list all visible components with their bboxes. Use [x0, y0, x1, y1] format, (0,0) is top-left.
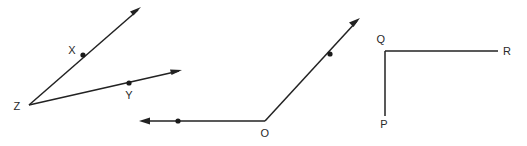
geometry-diagram: X Y Z O Q R P — [0, 0, 527, 146]
ray-zx-arrowhead — [130, 7, 141, 16]
angle-xzy-group: X Y Z — [14, 7, 182, 112]
ray-o-upright-arrowhead — [349, 18, 360, 27]
point-y-dot — [126, 80, 131, 85]
ray-zy-arrowhead — [170, 70, 182, 76]
label-y: Y — [125, 89, 133, 101]
label-q: Q — [377, 33, 386, 45]
angle-o-group: O — [139, 18, 360, 139]
ray-o-upright-line — [265, 21, 357, 121]
label-o: O — [261, 127, 270, 139]
ray-o-upright-dot — [327, 51, 332, 56]
ray-o-left-dot — [175, 118, 180, 123]
ray-zy-line — [29, 71, 179, 105]
label-r: R — [503, 45, 511, 57]
label-p: P — [380, 118, 388, 130]
ray-o-left-arrowhead — [139, 118, 150, 125]
label-z: Z — [14, 100, 21, 112]
label-x: X — [68, 44, 76, 56]
angle-pqr-group: Q R P — [377, 33, 511, 130]
diagram-canvas: X Y Z O Q R P — [0, 0, 527, 146]
point-x-dot — [80, 52, 85, 57]
